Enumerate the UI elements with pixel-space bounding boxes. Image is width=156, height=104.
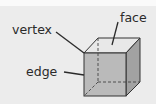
cube-figure: vertex face edge xyxy=(0,0,156,104)
cube-diagram: vertex face edge xyxy=(0,0,156,104)
vertex-leader-line xyxy=(56,32,84,53)
edge-leader-line xyxy=(64,72,84,75)
face-label: face xyxy=(120,10,147,25)
vertex-label: vertex xyxy=(12,22,52,37)
edge-label: edge xyxy=(26,64,58,79)
